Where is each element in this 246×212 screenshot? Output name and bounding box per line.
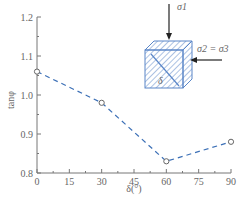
- cube-side-face: [183, 41, 192, 88]
- delta-angle-label: δ: [158, 75, 163, 86]
- sigma1-arrow-head: [166, 33, 172, 40]
- x-tick-label: 60: [161, 176, 171, 187]
- y-tick-label: 1.2: [21, 12, 34, 23]
- data-point-marker: [34, 69, 39, 74]
- y-tick-label: 0.9: [21, 129, 34, 140]
- x-tick-label: 15: [64, 176, 74, 187]
- x-tick-label: 0: [35, 176, 40, 187]
- data-point-marker: [99, 100, 104, 105]
- x-tick-label: 90: [226, 176, 236, 187]
- axes: 0.80.91.01.11.20153045607590: [21, 12, 237, 188]
- sigma2-sigma3-label: σ2 = σ3: [197, 43, 229, 54]
- x-tick-label: 75: [194, 176, 204, 187]
- x-tick-label: 30: [97, 176, 107, 187]
- y-axis-title: tanφ: [5, 91, 16, 109]
- data-point-marker: [164, 159, 169, 164]
- x-axis-title: δ(°): [126, 183, 141, 195]
- y-tick-label: 0.8: [21, 168, 34, 179]
- data-series: [34, 69, 233, 164]
- y-tick-label: 1.0: [21, 90, 34, 101]
- dashed-trend-line: [37, 72, 231, 162]
- sigma1-label: σ1: [177, 1, 187, 12]
- stress-cube-inset: σ1σ2 = σ3δ: [145, 1, 229, 88]
- chart: 0.80.91.01.11.20153045607590 σ1σ2 = σ3δ …: [0, 0, 246, 212]
- data-point-marker: [228, 139, 233, 144]
- y-tick-label: 1.1: [21, 51, 34, 62]
